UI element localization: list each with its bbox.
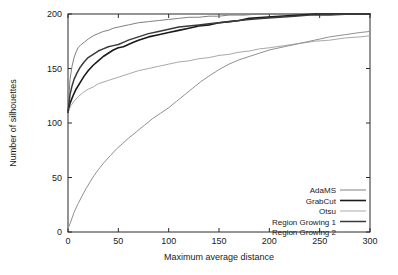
legend-label: GrabCut xyxy=(306,197,337,206)
y-tick-label: 200 xyxy=(47,9,62,19)
x-axis-title: Maximum average distance xyxy=(164,252,274,262)
x-tick-label: 100 xyxy=(161,236,176,246)
legend-label: Otsu xyxy=(319,207,336,216)
y-tick-label: 50 xyxy=(52,173,62,183)
legend-label: Region Growing 1 xyxy=(272,218,337,227)
line-chart: 050100150200250300050100150200Maximum av… xyxy=(0,0,398,275)
y-tick-label: 150 xyxy=(47,64,62,74)
y-tick-label: 0 xyxy=(57,227,62,237)
x-tick-label: 0 xyxy=(65,236,70,246)
y-axis-title: Number of silhouettes xyxy=(8,79,18,167)
legend-label: Region Growing 2 xyxy=(272,228,337,237)
x-tick-label: 200 xyxy=(262,236,277,246)
y-tick-label: 100 xyxy=(47,118,62,128)
legend-label: AdaMS xyxy=(310,186,336,195)
x-tick-label: 300 xyxy=(362,236,377,246)
x-tick-label: 150 xyxy=(211,236,226,246)
x-tick-label: 50 xyxy=(113,236,123,246)
x-tick-label: 250 xyxy=(312,236,327,246)
